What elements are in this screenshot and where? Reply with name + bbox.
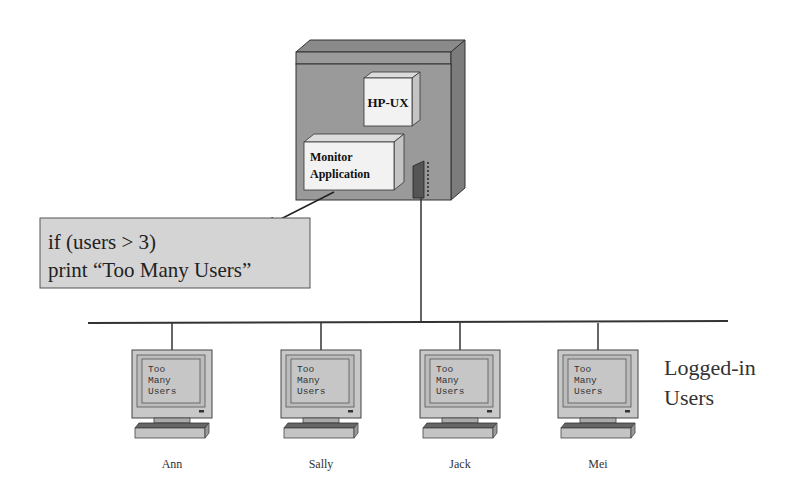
keyboard-top xyxy=(561,423,635,428)
power-led-icon xyxy=(487,410,492,413)
terminal-user-name: Ann xyxy=(162,457,183,471)
keyboard-icon xyxy=(135,428,205,438)
keyboard-top xyxy=(423,423,497,428)
monitor-app-label-line1: Monitor xyxy=(310,150,353,164)
screen-text-line: Too xyxy=(574,364,591,375)
screen-text-line: Many xyxy=(148,375,171,386)
code-line-1: if (users > 3) xyxy=(48,230,156,254)
terminal-user-name: Jack xyxy=(449,457,470,471)
keyboard-top xyxy=(284,423,358,428)
keyboard-top xyxy=(135,423,209,428)
screen-text-line: Many xyxy=(297,375,320,386)
screen-text-line: Users xyxy=(148,386,177,397)
terminal: TooManyUsersMei xyxy=(558,323,638,471)
monitor-stand xyxy=(154,418,190,423)
monitor-stand xyxy=(303,418,339,423)
terminal-user-name: Sally xyxy=(309,457,334,471)
server-top-band xyxy=(296,52,451,64)
terminal: TooManyUsersSally xyxy=(281,323,361,471)
group-label-line2: Users xyxy=(664,385,714,410)
power-led-icon xyxy=(625,410,630,413)
monitor-app-label-line2: Application xyxy=(310,167,370,181)
terminal: TooManyUsersJack xyxy=(420,323,500,471)
os-label: HP-UX xyxy=(367,95,409,110)
screen-text-line: Many xyxy=(436,375,459,386)
screen-text-line: Too xyxy=(436,364,453,375)
diagram-canvas: HP-UX Monitor Application if (users > 3)… xyxy=(0,0,807,492)
server-side-face xyxy=(451,40,465,200)
screen-text-line: Users xyxy=(297,386,326,397)
screen-text-line: Many xyxy=(574,375,597,386)
power-led-icon xyxy=(199,410,204,413)
terminals-group: TooManyUsersAnnTooManyUsersSallyTooManyU… xyxy=(132,323,638,471)
keyboard-icon xyxy=(423,428,493,438)
screen-text-line: Users xyxy=(436,386,465,397)
screen-text-line: Too xyxy=(148,364,165,375)
group-label-line1: Logged-in xyxy=(664,355,756,380)
screen-text-line: Users xyxy=(574,386,603,397)
network-bus xyxy=(88,321,728,323)
keyboard-icon xyxy=(284,428,354,438)
monitor-stand xyxy=(442,418,478,423)
code-line-2: print “Too Many Users” xyxy=(48,258,251,282)
keyboard-icon xyxy=(561,428,631,438)
server-top-face xyxy=(296,40,465,52)
screen-text-line: Too xyxy=(297,364,314,375)
monitor-stand xyxy=(580,418,616,423)
terminal: TooManyUsersAnn xyxy=(132,323,212,471)
power-led-icon xyxy=(348,410,353,413)
terminal-user-name: Mei xyxy=(588,457,608,471)
